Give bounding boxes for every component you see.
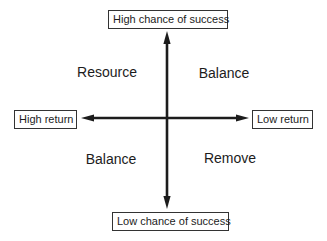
- arrow-left-icon: [81, 114, 94, 121]
- quadrant-diagram: High chance of success Low chance of suc…: [0, 0, 327, 241]
- quadrant-label-top-right: Balance: [199, 65, 250, 81]
- axis-label-high-return: High return: [14, 110, 77, 129]
- quadrant-label-top-left: Resource: [77, 64, 137, 80]
- quadrant-label-bottom-right: Remove: [204, 150, 256, 166]
- axis-label-low-return: Low return: [252, 110, 313, 129]
- axis-label-high-chance-of-success: High chance of success: [108, 10, 228, 29]
- quadrant-label-bottom-left: Balance: [86, 151, 137, 167]
- axis-label-low-chance-of-success: Low chance of success: [112, 212, 229, 231]
- arrow-down-icon: [163, 196, 170, 209]
- arrow-right-icon: [236, 114, 249, 121]
- arrow-up-icon: [163, 31, 170, 44]
